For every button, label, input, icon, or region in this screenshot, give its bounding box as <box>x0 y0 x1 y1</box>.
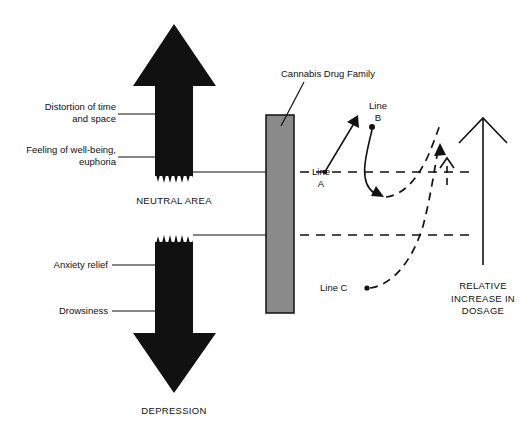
label-leader-lines <box>112 114 155 311</box>
line-b-vector <box>365 124 384 197</box>
up-arrow <box>133 24 216 183</box>
line-c-vector <box>364 143 446 291</box>
effect-label-drowsiness: Drowsiness <box>18 305 108 317</box>
line-b-label: LineB <box>357 100 399 124</box>
down-arrow <box>133 235 216 393</box>
diagram-graphics <box>0 0 525 436</box>
diagram-canvas: Distortion of timeand space Feeling of w… <box>0 0 525 436</box>
line-c-label: Line C <box>320 282 347 294</box>
depression-caption: DEPRESSION <box>114 405 234 417</box>
dosage-axis-arrow <box>459 118 507 265</box>
effect-label-anxiety-relief: Anxiety relief <box>18 259 108 271</box>
dosage-axis-label: RELATIVEINCREASE INDOSAGE <box>432 280 525 318</box>
dashed-rise-curve <box>386 122 441 197</box>
line-a-label: LineA <box>300 166 342 190</box>
neutral-area-caption: NEUTRAL AREA <box>114 195 234 207</box>
cannabis-drug-family-label: Cannabis Drug Family <box>281 68 375 80</box>
effect-label-euphoria: Feeling of well-being,euphoria <box>4 144 116 168</box>
effect-label-distortion: Distortion of timeand space <box>8 101 116 125</box>
cannabis-drug-family-bar <box>266 115 294 313</box>
